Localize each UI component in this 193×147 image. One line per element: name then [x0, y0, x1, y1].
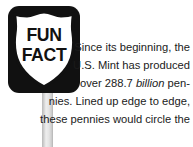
- fact-line: nies. Lined up edge to edge,: [0, 92, 193, 110]
- fact-line: Since its beginning, the: [0, 38, 193, 56]
- fact-text-block: Since its beginning, the U.S. Mint has p…: [0, 38, 193, 128]
- fact-line: these pennies would circle the: [0, 110, 193, 128]
- fact-line: over 288.7 billion pen-: [0, 74, 193, 92]
- fun-fact-callout: FUN FACT Since its beginning, the U.S. M…: [0, 0, 193, 147]
- fact-line: U.S. Mint has produced: [0, 56, 193, 74]
